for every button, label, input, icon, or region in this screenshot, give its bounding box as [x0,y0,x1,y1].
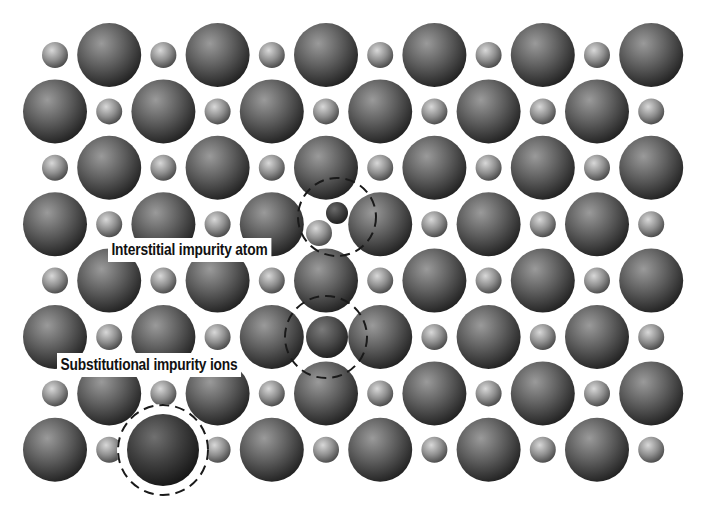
small-ion [150,268,176,294]
large-ion [402,249,466,313]
small-ion [313,437,339,463]
small-ion [259,268,285,294]
small-ion [259,155,285,181]
large-ion [619,136,683,200]
large-ion [23,79,87,143]
large-ion [348,192,412,256]
substitutional-impurity-label: Substitutional impurity ions [57,353,241,377]
small-ion [584,380,610,406]
small-ion [259,42,285,68]
small-ion [530,324,556,350]
large-ion [131,79,195,143]
interstitial-impurity-atom-sphere [326,202,348,224]
large-ion [457,192,521,256]
small-ion [42,42,68,68]
small-ion [42,268,68,294]
small-ion [530,211,556,237]
small-ion [96,211,122,237]
small-ion [421,98,447,124]
interstitial-impurity-label: Interstitial impurity atom [108,238,271,262]
small-ion [476,42,502,68]
large-ion [511,249,575,313]
substitutional-impurity-small-sphere [306,316,348,358]
large-ion [77,23,141,87]
large-ion [240,418,304,482]
lattice-diagram [0,0,703,515]
large-ion [294,136,358,200]
large-ion [348,79,412,143]
small-ion [638,437,664,463]
small-ion [584,268,610,294]
large-ion [511,136,575,200]
large-ion [511,23,575,87]
large-ion [77,136,141,200]
large-ion [240,305,304,369]
small-ion [96,98,122,124]
small-ion [421,211,447,237]
large-ion [619,23,683,87]
large-ion [348,418,412,482]
large-ion [619,361,683,425]
small-ion [96,324,122,350]
small-ion [584,42,610,68]
substitutional-impurity-large-sphere [127,414,199,486]
large-ion [565,192,629,256]
large-ion [294,23,358,87]
large-ion [565,305,629,369]
small-ion [205,211,231,237]
small-ion [367,42,393,68]
small-ion [313,98,339,124]
large-ion [619,249,683,313]
small-ion [205,98,231,124]
small-ion [367,380,393,406]
small-ion [367,268,393,294]
small-ion [259,380,285,406]
large-ion [23,192,87,256]
small-ion [530,437,556,463]
large-ion [240,79,304,143]
small-ion [150,380,176,406]
small-ion [476,268,502,294]
large-ion [457,418,521,482]
large-ion [23,418,87,482]
small-ion [476,155,502,181]
interstitial-impurity-atom-sphere [306,220,332,246]
large-ion [565,418,629,482]
large-ion [402,361,466,425]
large-ion [457,79,521,143]
large-ion [402,136,466,200]
large-ion [186,23,250,87]
small-ion [421,324,447,350]
small-ion [530,98,556,124]
large-ion [348,305,412,369]
small-ion [476,380,502,406]
large-ion [565,79,629,143]
small-ion [42,380,68,406]
small-ion [150,42,176,68]
small-ion [584,155,610,181]
small-ion [638,324,664,350]
large-ion [186,136,250,200]
small-ion [367,155,393,181]
small-ion [205,324,231,350]
large-ion [511,361,575,425]
small-ion [42,155,68,181]
large-ion [457,305,521,369]
large-ion [402,23,466,87]
small-ion [638,211,664,237]
small-ion [638,98,664,124]
small-ion [421,437,447,463]
small-ion [150,155,176,181]
